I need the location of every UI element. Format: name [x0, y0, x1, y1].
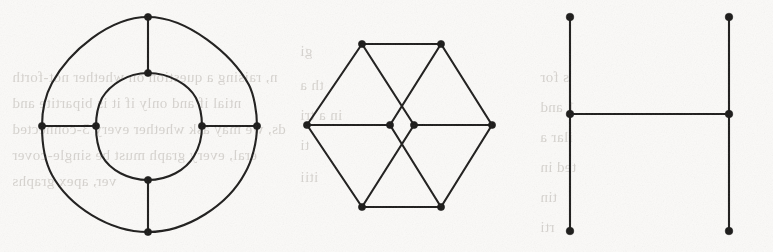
inner-cycle-edge-bottom-right	[148, 126, 202, 180]
vertex-right-middle	[725, 110, 733, 118]
vertex-inner-top	[144, 69, 151, 76]
graph-figures-canvas	[0, 0, 773, 252]
vertex-hex-top-right	[437, 40, 444, 47]
vertex-hex-left	[303, 121, 310, 128]
outer-cycle-edge-bottom-right	[148, 126, 257, 232]
vertex-inner-left	[92, 122, 99, 129]
hex-edge-upper-left	[307, 44, 362, 125]
vertex-outer-bottom	[144, 228, 151, 235]
hex-edge-lower-left	[307, 125, 362, 207]
vertex-right-bottom	[725, 227, 733, 235]
diagonal-edge-bottom-left-to-center-right	[362, 125, 414, 207]
outer-cycle-edge-top-left	[42, 17, 148, 126]
vertex-left-middle	[566, 110, 574, 118]
vertex-right-top	[725, 13, 733, 21]
vertex-center-right	[410, 121, 417, 128]
vertex-hex-bottom-right	[437, 203, 444, 210]
diagonal-edge-top-right-to-center-left	[390, 44, 441, 125]
figure-left	[38, 13, 260, 235]
vertex-hex-top-left	[358, 40, 365, 47]
vertex-left-bottom	[566, 227, 574, 235]
diagonal-edge-bottom-right-to-center-left	[390, 125, 441, 207]
vertex-outer-right	[253, 122, 260, 129]
vertex-outer-top	[144, 13, 151, 20]
vertex-hex-bottom-left	[358, 203, 365, 210]
vertex-inner-bottom	[144, 176, 151, 183]
hex-edge-lower-right	[441, 125, 492, 207]
outer-cycle-edge-top-right	[148, 17, 257, 126]
vertex-center-left	[386, 121, 393, 128]
figure-middle	[303, 40, 495, 210]
vertex-outer-left	[38, 122, 45, 129]
inner-cycle-edge-bottom-left	[96, 126, 148, 180]
vertex-inner-right	[198, 122, 205, 129]
figure-right	[566, 13, 733, 235]
hex-edge-upper-right	[441, 44, 492, 125]
diagonal-edge-top-left-to-center-right	[362, 44, 414, 125]
inner-cycle-edge-top-left	[96, 73, 148, 126]
outer-cycle-edge-bottom-left	[42, 126, 148, 232]
vertex-hex-right	[488, 121, 495, 128]
vertex-left-top	[566, 13, 574, 21]
scanned-figure-page: n, raising a question on whether not-for…	[0, 0, 773, 252]
inner-cycle-edge-top-right	[148, 73, 202, 126]
